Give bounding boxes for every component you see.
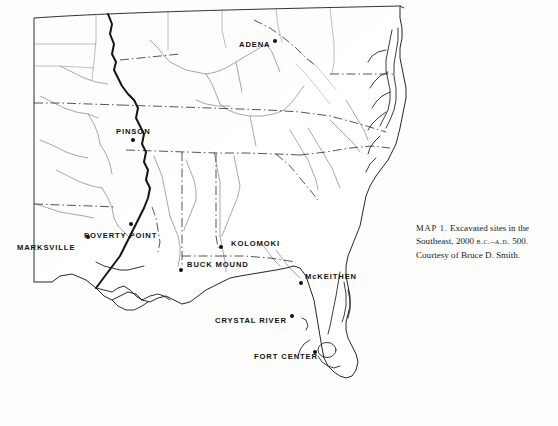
caption-line-1-rest: Excavated sites in the [448, 223, 529, 233]
caption-line-3: Courtesy of Bruce D. Smith. [416, 249, 550, 262]
caption-line-2-a: Southeast, 2000 [416, 236, 476, 246]
site-label-mckeithen: McKEITHEN [305, 273, 357, 281]
page-bleed-text: · · · · · · · · · · · [110, 416, 450, 425]
site-label-pinson: PINSON [116, 128, 151, 136]
site-label-kolomoki: KOLOMOKI [231, 240, 280, 248]
site-label-adena: ADENA [239, 41, 271, 49]
caption-era-bc: b.c. [476, 236, 490, 246]
caption-line-2: Southeast, 2000 b.c.–a.d. 500. [416, 235, 550, 248]
caption-line-2-b: 500. [510, 236, 528, 246]
site-label-marksville: MARKSVILLE [17, 244, 75, 252]
site-label-fort-center: FORT CENTER [254, 353, 318, 361]
caption-era-ad: a.d. [495, 236, 510, 246]
page-canvas: ADENAPINSONPOVERTY POINTMARKSVILLEKOLOMO… [0, 0, 558, 426]
caption-map-label: MAP 1. [416, 223, 448, 233]
map-figure: ADENAPINSONPOVERTY POINTMARKSVILLEKOLOMO… [0, 0, 420, 410]
map-graphic [0, 0, 420, 410]
caption-line-1: MAP 1. Excavated sites in the [416, 222, 550, 235]
site-label-buck-mound: BUCK MOUND [187, 261, 249, 269]
site-label-poverty-point: POVERTY POINT [84, 232, 157, 240]
map-caption: MAP 1. Excavated sites in the Southeast,… [416, 222, 550, 262]
site-label-crystal-river: CRYSTAL RIVER [215, 317, 287, 325]
